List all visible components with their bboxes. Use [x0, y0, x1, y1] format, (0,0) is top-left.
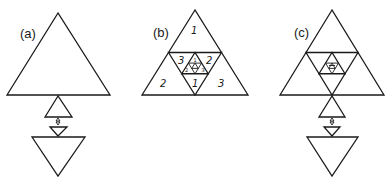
region-number-top: 1: [191, 25, 197, 36]
triangle-fractal-diagram: (a) (b) 1 2 3 3 2 1 1 2 3 (c): [0, 0, 392, 185]
panel-a-label: (a): [20, 26, 36, 41]
region-number-bottom-right: 3: [218, 78, 224, 89]
region-number-inner-left: 3: [178, 55, 184, 66]
tiny-connector: [56, 118, 60, 125]
region-number-inner-bottom: 1: [192, 78, 198, 89]
region-number-inner-right: 2: [206, 55, 212, 66]
panel-c-label: (c): [294, 25, 309, 40]
small-down-triangle: [324, 127, 340, 136]
small-up-triangle: [45, 96, 72, 117]
region-number-innermost-left: 2: [185, 67, 188, 73]
region-number-innermost-top: 1: [194, 57, 197, 63]
panel-b: (b) 1 2 3 3 2 1 1 2 3: [142, 10, 248, 95]
panel-b-label: (b): [153, 25, 169, 40]
region-number-innermost-right: 3: [202, 67, 205, 73]
small-up-triangle: [319, 96, 345, 117]
innermost-triangle: [192, 63, 199, 68]
region-number-bottom-left: 2: [160, 78, 166, 89]
panel-a: (a): [7, 13, 110, 176]
small-down-triangle: [50, 127, 67, 136]
tiny-connector: [330, 118, 334, 125]
large-down-triangle: [307, 137, 358, 176]
large-down-triangle: [32, 137, 85, 176]
panel-c: (c): [280, 10, 384, 176]
